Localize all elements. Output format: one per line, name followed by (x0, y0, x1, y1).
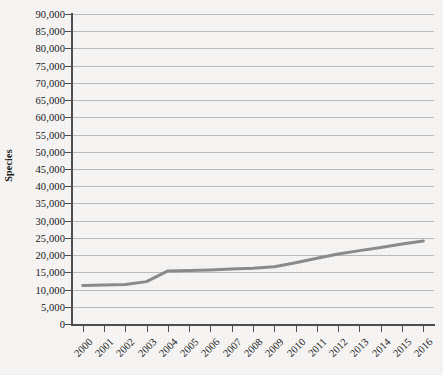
y-tick-label-25000: 25,000 (36, 232, 65, 243)
x-tick-label-2002: 2002 (114, 336, 137, 359)
x-tick-label-2003: 2003 (135, 336, 158, 359)
y-axis-line (71, 13, 73, 325)
y-axis-tick-labels: 05,00010,00015,00020,00025,00030,00035,0… (14, 0, 69, 340)
y-tick-label-30000: 30,000 (36, 215, 65, 226)
x-tick-label-2014: 2014 (370, 336, 393, 359)
x-tick-label-2006: 2006 (199, 336, 222, 359)
y-tick-label-35000: 35,000 (36, 198, 65, 209)
x-tick-label-2000: 2000 (72, 336, 95, 359)
x-tick-label-2007: 2007 (221, 336, 244, 359)
y-tick-mark-75000 (65, 66, 71, 67)
x-tick-label-2001: 2001 (93, 336, 116, 359)
y-tick-mark-0 (65, 324, 71, 325)
series-line-species (72, 14, 434, 324)
y-tick-mark-60000 (65, 117, 71, 118)
y-tick-mark-70000 (65, 83, 71, 84)
y-tick-mark-25000 (65, 238, 71, 239)
y-tick-label-20000: 20,000 (36, 250, 65, 261)
y-tick-mark-80000 (65, 48, 71, 49)
x-tick-label-2009: 2009 (263, 336, 286, 359)
series-polyline (83, 241, 424, 285)
y-tick-mark-10000 (65, 290, 71, 291)
species-line-chart: Species 05,00010,00015,00020,00025,00030… (0, 0, 443, 375)
x-axis-tick-labels: 2000200120022003200420052006200720082009… (0, 330, 443, 375)
y-tick-label-70000: 70,000 (36, 77, 65, 88)
y-axis-title-label: Species (3, 149, 14, 182)
y-tick-label-45000: 45,000 (36, 164, 65, 175)
y-tick-label-65000: 65,000 (36, 95, 65, 106)
y-tick-mark-45000 (65, 169, 71, 170)
y-tick-label-10000: 10,000 (36, 284, 65, 295)
y-tick-mark-90000 (65, 14, 71, 15)
y-tick-label-15000: 15,000 (36, 267, 65, 278)
y-tick-mark-50000 (65, 152, 71, 153)
x-tick-label-2012: 2012 (327, 336, 350, 359)
y-tick-label-90000: 90,000 (36, 9, 65, 20)
x-tick-label-2008: 2008 (242, 336, 265, 359)
y-tick-label-75000: 75,000 (36, 60, 65, 71)
plot-area (72, 14, 434, 324)
y-tick-mark-5000 (65, 307, 71, 308)
x-tick-label-2005: 2005 (178, 336, 201, 359)
y-tick-label-5000: 5,000 (41, 301, 65, 312)
x-tick-label-2015: 2015 (391, 336, 414, 359)
x-tick-label-2016: 2016 (412, 336, 435, 359)
x-tick-label-2010: 2010 (284, 336, 307, 359)
y-tick-label-50000: 50,000 (36, 146, 65, 157)
x-tick-label-2011: 2011 (306, 336, 329, 359)
y-tick-label-40000: 40,000 (36, 181, 65, 192)
y-tick-mark-40000 (65, 186, 71, 187)
y-tick-mark-35000 (65, 203, 71, 204)
y-tick-mark-65000 (65, 100, 71, 101)
y-tick-mark-20000 (65, 255, 71, 256)
y-tick-mark-15000 (65, 272, 71, 273)
y-tick-label-60000: 60,000 (36, 112, 65, 123)
y-tick-mark-30000 (65, 221, 71, 222)
y-tick-label-55000: 55,000 (36, 129, 65, 140)
y-tick-label-85000: 85,000 (36, 26, 65, 37)
x-tick-label-2004: 2004 (157, 336, 180, 359)
x-tick-label-2013: 2013 (348, 336, 371, 359)
y-tick-label-80000: 80,000 (36, 43, 65, 54)
y-tick-mark-55000 (65, 135, 71, 136)
y-tick-mark-85000 (65, 31, 71, 32)
